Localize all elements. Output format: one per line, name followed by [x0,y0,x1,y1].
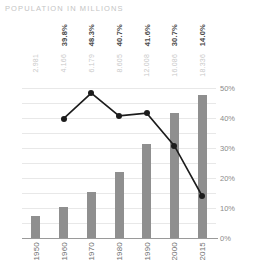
bar-value-label: 8.605 [116,54,123,73]
line-marker [88,90,94,96]
bar [87,192,96,239]
y-tick-right: 50% [220,84,235,93]
y-tick-right: 40% [220,114,235,123]
line-percent-label: 30.7% [170,24,179,46]
line-marker [171,143,177,149]
line-percent-label: 40.7% [115,24,124,46]
y-tick-right: 30% [220,144,235,153]
bar-value-label: 16.086 [171,54,178,77]
population-chart: POPULATION IN MILLIONS 02468101214161820… [0,0,261,267]
bar-value-label: 4.166 [60,54,67,73]
y-tick-right: 0% [220,234,231,243]
line-percent-label: 39.8% [60,24,69,46]
line-marker [144,110,150,116]
gridline [22,88,216,89]
gridline [22,133,216,134]
gridline [22,163,216,164]
bar [59,207,68,239]
x-tick: 1970 [87,242,96,261]
y-tick-right: 10% [220,204,235,213]
line-percent-label: 48.3% [87,24,96,46]
bar-value-label: 18.336 [199,54,206,77]
bar [142,144,151,239]
line-percent-label: 14.0% [198,24,207,46]
bar [170,113,179,238]
gridline [22,148,216,149]
bar-value-label: 12.008 [143,54,150,77]
x-tick: 2015 [198,242,207,261]
x-tick: 1980 [115,242,124,261]
line-marker [116,113,122,119]
x-tick: 1950 [32,242,41,261]
chart-title: POPULATION IN MILLIONS [5,4,124,13]
line-marker [61,116,67,122]
gridline [22,103,216,104]
bar [198,95,207,238]
plot-area [22,88,216,238]
y-tick-right: 20% [220,174,235,183]
bar [31,216,40,239]
line-percent-label: 41.6% [143,24,152,46]
bar-value-label: 2.981 [32,54,39,73]
x-tick: 1960 [60,242,69,261]
bar [115,172,124,238]
line-marker [199,193,205,199]
bar-value-label: 6.179 [88,54,95,73]
x-axis-line [22,238,218,239]
x-tick: 2000 [170,242,179,261]
x-tick: 1990 [143,242,152,261]
